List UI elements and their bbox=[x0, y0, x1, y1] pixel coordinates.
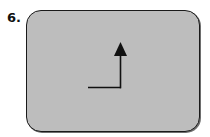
arrowhead-up-icon bbox=[114, 42, 127, 56]
turn-up-arrow-icon bbox=[0, 0, 210, 137]
arrow-path bbox=[88, 42, 127, 88]
